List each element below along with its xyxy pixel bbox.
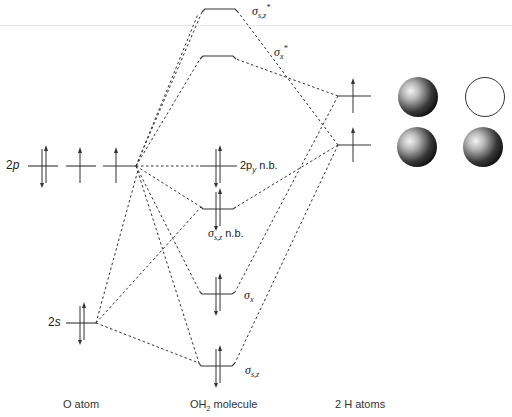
mo-level-sigma-sz: [199, 363, 235, 366]
mo-label-sigma-x-star: σx*: [274, 44, 287, 61]
column-label-o-atom: O atom: [63, 398, 99, 410]
mo-label-sigma-x: σx: [244, 288, 253, 304]
h-orbital-sphere-empty: [465, 77, 505, 117]
mo-level-sigma-x: [200, 292, 235, 294]
mo-diagram: [0, 0, 512, 417]
mo-label-2py-nb: 2py n.b.: [240, 159, 278, 174]
mo-level-sigma-sz-star: [202, 9, 238, 12]
h-orbital-sphere-filled: [397, 127, 437, 167]
mo-label-sigma-sz-star: σs,z*: [252, 3, 270, 20]
mo-label-sigma-sz: σs,z: [245, 363, 259, 379]
mo-level-sigma-sz-nb: [201, 207, 236, 209]
h-orbital-sphere-filled: [463, 127, 503, 167]
o-2p-label: 2p: [6, 158, 19, 172]
column-label-h-atoms: 2 H atoms: [335, 398, 385, 410]
h-orbital-sphere-filled: [398, 77, 438, 117]
mo-label-sigma-sz-nb: σs,z n.b.: [208, 226, 244, 242]
o-2s-label: 2s: [48, 315, 61, 329]
correlation-lines: [96, 12, 338, 363]
column-label-oh2-molecule: OH2 molecule: [190, 398, 257, 412]
mo-level-sigma-x-star: [200, 56, 236, 59]
